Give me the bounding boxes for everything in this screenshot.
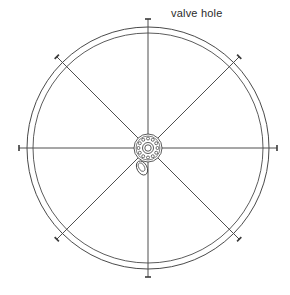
- hub-bore-inner-circle: [145, 145, 151, 151]
- valve-hole-label: valve hole: [171, 7, 223, 20]
- technical-drawing-canvas: valve hole: [0, 0, 290, 295]
- hub-bolt-hole: [155, 151, 158, 154]
- hub-bolt-hole: [147, 137, 150, 140]
- hub-bolt-hole: [151, 155, 154, 158]
- hub-bolt-hole: [138, 151, 141, 154]
- hub-bolt-hole: [142, 138, 145, 141]
- hub-bolt-hole: [137, 147, 140, 150]
- hub-bolt-hole: [138, 142, 141, 145]
- hub-bolt-hole: [156, 147, 159, 150]
- hub-assembly: [134, 134, 162, 162]
- hub-bolt-hole: [142, 155, 145, 158]
- hub-bolt-hole: [147, 156, 150, 159]
- wheel-diagram: [0, 0, 290, 295]
- hub-bolt-hole: [151, 138, 154, 141]
- hub-bolt-hole: [155, 142, 158, 145]
